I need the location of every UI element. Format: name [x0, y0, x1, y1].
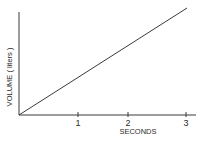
chart: 1 2 3 SECONDS VOLUME ( liters ) [0, 0, 204, 141]
y-axis-label: VOLUME ( liters ) [5, 47, 14, 106]
x-tick-label-1: 1 [75, 118, 80, 128]
data-line [19, 8, 187, 115]
x-tick-label-3: 3 [183, 118, 188, 128]
x-axis-label: SECONDS [119, 127, 156, 136]
